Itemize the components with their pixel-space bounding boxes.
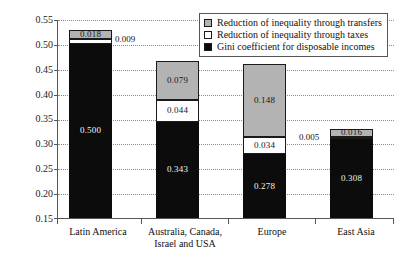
y-axis-tick-label: 0.30 xyxy=(19,139,53,149)
bar-segment-gini[interactable]: 0.278 xyxy=(243,154,286,218)
bar-east-asia[interactable]: 0.308 0.005 0.016 xyxy=(330,129,373,218)
stacked-bar-chart: 0.55 0.50 0.45 0.40 0.35 0.30 0.25 0.20 … xyxy=(0,0,414,261)
bar-value-transfers: 0.016 xyxy=(341,128,362,137)
y-axis-tick-label: 0.35 xyxy=(19,114,53,124)
x-axis-label-line: Israel and USA xyxy=(130,238,240,250)
legend-item-gini[interactable]: Gini coefficient for disposable incomes xyxy=(204,41,382,53)
y-axis-tick xyxy=(54,144,58,145)
bar-segment-transfers[interactable]: 0.018 xyxy=(69,30,112,39)
y-axis-tick xyxy=(54,70,58,71)
y-axis-tick-label: 0.20 xyxy=(19,189,53,199)
legend-label: Reduction of inequality through transfer… xyxy=(217,18,382,28)
bar-segment-taxes[interactable]: 0.034 xyxy=(243,137,286,154)
legend-label: Reduction of inequality through taxes xyxy=(217,30,368,40)
bar-segment-transfers[interactable]: 0.079 xyxy=(156,61,199,100)
bar-segment-transfers[interactable]: 0.016 xyxy=(330,129,373,137)
y-axis-tick-label: 0.50 xyxy=(19,40,53,50)
bar-segment-taxes[interactable]: 0.009 xyxy=(69,39,112,44)
y-axis-labels: 0.55 0.50 0.45 0.40 0.35 0.30 0.25 0.20 … xyxy=(19,20,53,219)
bar-value-taxes: 0.044 xyxy=(167,106,188,115)
legend: Reduction of inequality through transfer… xyxy=(199,13,388,57)
x-axis-tick xyxy=(228,219,229,224)
bar-segment-gini[interactable]: 0.500 xyxy=(69,44,112,218)
gini-swatch-icon xyxy=(204,43,212,51)
x-axis-tick xyxy=(315,219,316,224)
transfers-swatch-icon xyxy=(204,19,212,27)
taxes-swatch-icon xyxy=(204,31,212,39)
bar-value-taxes: 0.034 xyxy=(254,141,275,150)
bar-segment-gini[interactable]: 0.308 xyxy=(330,139,373,218)
bar-value-taxes-outside: 0.009 xyxy=(115,35,135,44)
y-axis-tick xyxy=(54,20,58,21)
bar-value-gini: 0.500 xyxy=(80,126,101,135)
y-axis-tick xyxy=(54,194,58,195)
legend-label: Gini coefficient for disposable incomes xyxy=(217,42,375,52)
y-axis-tick xyxy=(54,169,58,170)
bar-value-gini: 0.343 xyxy=(167,165,188,174)
bar-value-transfers: 0.079 xyxy=(167,76,188,85)
x-axis-tick xyxy=(57,219,58,224)
x-axis-label-east-asia: East Asia xyxy=(306,226,406,238)
bar-value-gini: 0.278 xyxy=(254,182,275,191)
bar-segment-gini[interactable]: 0.343 xyxy=(156,122,199,218)
bar-value-taxes-outside: 0.005 xyxy=(299,133,319,142)
y-axis-tick-label: 0.55 xyxy=(19,15,53,25)
y-axis-tick-label: 0.40 xyxy=(19,90,53,100)
x-axis-tick xyxy=(141,219,142,224)
bar-value-transfers: 0.148 xyxy=(254,96,275,105)
y-axis-tick xyxy=(54,120,58,121)
x-axis-label-line: East Asia xyxy=(306,226,406,238)
y-axis-tick-label: 0.45 xyxy=(19,65,53,75)
bar-europe[interactable]: 0.278 0.034 0.148 xyxy=(243,64,286,219)
legend-item-transfers[interactable]: Reduction of inequality through transfer… xyxy=(204,17,382,29)
y-axis-tick xyxy=(54,45,58,46)
bar-segment-taxes[interactable]: 0.044 xyxy=(156,100,199,122)
y-axis-tick xyxy=(54,95,58,96)
bar-australia-canada-israel-usa[interactable]: 0.343 0.044 0.079 xyxy=(156,61,199,218)
bar-value-transfers: 0.018 xyxy=(80,30,101,39)
bar-segment-transfers[interactable]: 0.148 xyxy=(243,64,286,138)
bar-value-gini: 0.308 xyxy=(341,174,362,183)
bar-latin-america[interactable]: 0.500 0.009 0.018 xyxy=(69,30,112,218)
legend-item-taxes[interactable]: Reduction of inequality through taxes xyxy=(204,29,382,41)
y-axis-tick-label: 0.25 xyxy=(19,164,53,174)
x-axis-tick xyxy=(393,219,394,224)
y-axis-tick-label: 0.15 xyxy=(19,214,53,224)
